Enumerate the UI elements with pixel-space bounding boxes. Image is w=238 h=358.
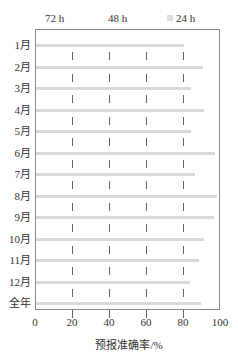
grid-tick bbox=[146, 52, 147, 60]
grid-tick bbox=[183, 246, 184, 254]
grid-tick bbox=[146, 224, 147, 232]
x-tick-label: 80 bbox=[178, 316, 189, 328]
legend: 72 h 48 h 24 h bbox=[0, 12, 238, 26]
grid-tick bbox=[183, 289, 184, 297]
bar bbox=[36, 87, 191, 90]
grid-tick bbox=[146, 138, 147, 146]
grid-tick bbox=[72, 74, 73, 82]
grid-tick bbox=[72, 267, 73, 275]
y-axis-label: 1月 bbox=[0, 36, 31, 52]
grid-tick bbox=[183, 52, 184, 60]
grid-tick bbox=[109, 160, 110, 168]
grid-tick bbox=[109, 203, 110, 211]
y-axis-label: 9月 bbox=[0, 208, 31, 224]
grid-tick bbox=[183, 181, 184, 189]
y-axis-label: 10月 bbox=[0, 230, 31, 246]
grid-tick bbox=[72, 117, 73, 125]
legend-48h: 48 h bbox=[108, 12, 127, 24]
bar bbox=[36, 152, 215, 155]
grid-tick bbox=[146, 74, 147, 82]
grid-tick bbox=[109, 74, 110, 82]
bar bbox=[36, 173, 195, 176]
grid-tick bbox=[72, 289, 73, 297]
bar bbox=[36, 281, 190, 284]
y-axis-label: 7月 bbox=[0, 165, 31, 181]
x-tick-label: 100 bbox=[212, 316, 229, 328]
grid-tick bbox=[72, 246, 73, 254]
grid-tick bbox=[109, 224, 110, 232]
y-axis-label: 8月 bbox=[0, 187, 31, 203]
grid-tick bbox=[183, 267, 184, 275]
grid-tick bbox=[109, 117, 110, 125]
grid-tick bbox=[72, 52, 73, 60]
x-tick-label: 60 bbox=[141, 316, 152, 328]
grid-tick bbox=[183, 95, 184, 103]
grid-tick bbox=[109, 289, 110, 297]
grid-tick bbox=[109, 181, 110, 189]
grid-tick bbox=[146, 289, 147, 297]
grid-tick bbox=[183, 74, 184, 82]
bar bbox=[36, 109, 204, 112]
grid-tick bbox=[146, 246, 147, 254]
grid-tick bbox=[72, 138, 73, 146]
y-axis-label: 3月 bbox=[0, 79, 31, 95]
plot-area bbox=[35, 29, 220, 310]
bar bbox=[36, 302, 201, 305]
bar bbox=[36, 259, 199, 262]
grid-tick bbox=[146, 267, 147, 275]
x-axis-title: 预报准确率/% bbox=[0, 336, 238, 352]
grid-tick bbox=[183, 203, 184, 211]
legend-24h: 24 h bbox=[167, 12, 195, 24]
y-axis-label: 2月 bbox=[0, 58, 31, 74]
y-axis-label: 6月 bbox=[0, 144, 31, 160]
bar bbox=[36, 238, 204, 241]
grid-tick bbox=[109, 52, 110, 60]
y-axis-label: 5月 bbox=[0, 122, 31, 138]
grid-tick bbox=[146, 181, 147, 189]
x-tick-label: 20 bbox=[67, 316, 78, 328]
grid-tick bbox=[183, 224, 184, 232]
grid-tick bbox=[146, 203, 147, 211]
grid-tick bbox=[72, 224, 73, 232]
grid-tick bbox=[72, 95, 73, 103]
grid-tick bbox=[72, 181, 73, 189]
grid-tick bbox=[109, 267, 110, 275]
grid-tick bbox=[109, 95, 110, 103]
grid-tick bbox=[72, 160, 73, 168]
grid-tick bbox=[109, 138, 110, 146]
bar bbox=[36, 44, 184, 47]
y-axis-label: 4月 bbox=[0, 101, 31, 117]
y-axis-label: 11月 bbox=[0, 251, 31, 267]
x-tick-label: 40 bbox=[104, 316, 115, 328]
bar bbox=[36, 195, 217, 198]
grid-tick bbox=[183, 117, 184, 125]
grid-tick bbox=[146, 160, 147, 168]
legend-swatch bbox=[167, 15, 173, 21]
y-axis-label: 全年 bbox=[0, 294, 31, 310]
grid-tick bbox=[146, 95, 147, 103]
bar bbox=[36, 66, 203, 69]
y-axis-label: 12月 bbox=[0, 273, 31, 289]
grid-tick bbox=[146, 117, 147, 125]
legend-72h: 72 h bbox=[45, 12, 64, 24]
grid-tick bbox=[183, 138, 184, 146]
x-tick-label: 0 bbox=[32, 316, 38, 328]
grid-tick bbox=[72, 203, 73, 211]
bar bbox=[36, 216, 214, 219]
grid-tick bbox=[109, 246, 110, 254]
bar bbox=[36, 130, 191, 133]
grid-tick bbox=[183, 160, 184, 168]
